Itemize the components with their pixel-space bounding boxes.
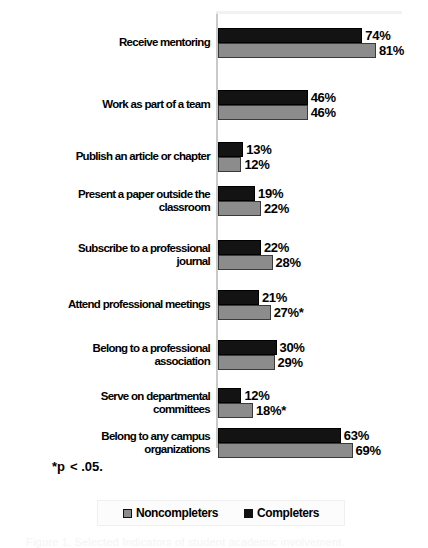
significance-footnote: *p< .05. xyxy=(52,459,103,474)
category-label-line: Attend professional meetings xyxy=(4,298,210,312)
category-label-line: Present a paper outside the xyxy=(4,188,210,202)
category-label: Belong to a professionalassociation xyxy=(4,342,210,369)
bar-noncompleters[interactable] xyxy=(218,157,241,172)
bar-noncompleters[interactable] xyxy=(218,255,273,270)
legend-label-noncompleters: Noncompleters xyxy=(136,506,218,520)
completers-swatch-icon xyxy=(244,509,253,518)
category-label-line: Publish an article or chapter xyxy=(4,150,210,164)
bar-completers[interactable] xyxy=(218,186,255,201)
bar-value-label: 46% xyxy=(308,105,336,120)
bar-value-label: 21% xyxy=(259,290,287,305)
figure-caption-ghost: Figure 1. Selected Indicators of student… xyxy=(26,536,406,548)
bar-pair: 13%12% xyxy=(218,142,271,172)
category-label: Receive mentoring xyxy=(4,36,210,50)
bar-pair: 12%18%* xyxy=(218,388,286,418)
bar-pair: 63%69% xyxy=(218,428,381,458)
bar-pair: 19%22% xyxy=(218,186,289,216)
bar-row-completers: 63% xyxy=(218,428,381,443)
bar-noncompleters[interactable] xyxy=(218,443,353,458)
category-axis-line xyxy=(216,14,218,448)
bar-row-noncompleters: 29% xyxy=(218,355,305,370)
category-label-line: Belong to a professional xyxy=(4,342,210,356)
bar-value-label: 63% xyxy=(341,428,369,443)
category-label-line: Receive mentoring xyxy=(4,36,210,50)
plot-area: Receive mentoring74%81%Work as part of a… xyxy=(0,14,428,448)
bar-value-label: 12% xyxy=(241,157,269,172)
bar-completers[interactable] xyxy=(218,340,277,355)
bar-value-label: 12% xyxy=(241,388,269,403)
category-label: Belong to any campusorganizations xyxy=(4,430,210,457)
bar-row-noncompleters: 69% xyxy=(218,443,381,458)
category-label: Present a paper outside theclassroom xyxy=(4,188,210,215)
bar-value-label: 30% xyxy=(277,340,305,355)
bar-value-label: 29% xyxy=(275,355,303,370)
bar-row-completers: 46% xyxy=(218,90,336,105)
bar-row-noncompleters: 18%* xyxy=(218,403,286,418)
bar-row-completers: 74% xyxy=(218,28,404,43)
legend-item-completers[interactable]: Completers xyxy=(244,506,319,520)
bar-completers[interactable] xyxy=(218,290,259,305)
bar-value-label: 28% xyxy=(273,255,301,270)
category-label-line: association xyxy=(4,355,210,369)
bar-pair: 74%81% xyxy=(218,28,404,58)
bar-completers[interactable] xyxy=(218,142,243,157)
bar-row-completers: 21% xyxy=(218,290,304,305)
bar-row-noncompleters: 28% xyxy=(218,255,301,270)
bar-completers[interactable] xyxy=(218,240,261,255)
category-label: Serve on departmentalcommittees xyxy=(4,390,210,417)
bar-value-label: 18%* xyxy=(253,403,286,418)
bar-noncompleters[interactable] xyxy=(218,105,308,120)
bar-pair: 21%27%* xyxy=(218,290,304,320)
bar-row-completers: 13% xyxy=(218,142,271,157)
bar-noncompleters[interactable] xyxy=(218,305,271,320)
bar-noncompleters[interactable] xyxy=(218,403,253,418)
legend-item-noncompleters[interactable]: Noncompleters xyxy=(123,506,218,520)
bar-completers[interactable] xyxy=(218,388,241,403)
bar-noncompleters[interactable] xyxy=(218,355,275,370)
bar-noncompleters[interactable] xyxy=(218,201,261,216)
bar-completers[interactable] xyxy=(218,428,341,443)
bar-row-noncompleters: 81% xyxy=(218,43,404,58)
category-label: Attend professional meetings xyxy=(4,298,210,312)
category-label-line: organizations xyxy=(4,443,210,457)
bar-pair: 30%29% xyxy=(218,340,305,370)
bar-value-label: 13% xyxy=(243,142,271,157)
bar-row-completers: 22% xyxy=(218,240,301,255)
bar-completers[interactable] xyxy=(218,28,362,43)
category-label: Subscribe to a professionaljournal xyxy=(4,242,210,269)
noncompleters-swatch-icon xyxy=(123,509,132,518)
bar-value-label: 46% xyxy=(308,90,336,105)
category-label-line: committees xyxy=(4,403,210,417)
footnote-comparison: < .05. xyxy=(70,459,103,474)
bar-row-noncompleters: 46% xyxy=(218,105,336,120)
category-label-line: Serve on departmental xyxy=(4,390,210,404)
bar-row-completers: 30% xyxy=(218,340,305,355)
category-label-line: Subscribe to a professional xyxy=(4,242,210,256)
bar-value-label: 69% xyxy=(353,443,381,458)
category-label-line: journal xyxy=(4,255,210,269)
bar-row-noncompleters: 22% xyxy=(218,201,289,216)
bar-value-label: 19% xyxy=(255,186,283,201)
category-label-line: Work as part of a team xyxy=(4,98,210,112)
bar-row-noncompleters: 12% xyxy=(218,157,271,172)
category-label-line: classroom xyxy=(4,201,210,215)
bar-pair: 46%46% xyxy=(218,90,336,120)
category-label: Publish an article or chapter xyxy=(4,150,210,164)
footnote-text: p xyxy=(57,459,65,474)
bar-row-completers: 12% xyxy=(218,388,286,403)
bar-row-completers: 19% xyxy=(218,186,289,201)
bar-value-label: 22% xyxy=(261,240,289,255)
category-label-line: Belong to any campus xyxy=(4,430,210,444)
chart-legend: Noncompleters Completers xyxy=(97,500,345,526)
bar-value-label: 81% xyxy=(376,43,404,58)
bar-value-label: 27%* xyxy=(271,305,304,320)
legend-label-completers: Completers xyxy=(257,506,319,520)
bar-pair: 22%28% xyxy=(218,240,301,270)
bar-value-label: 74% xyxy=(362,28,390,43)
bar-completers[interactable] xyxy=(218,90,308,105)
bar-row-noncompleters: 27%* xyxy=(218,305,304,320)
bar-noncompleters[interactable] xyxy=(218,43,376,58)
bar-value-label: 22% xyxy=(261,201,289,216)
category-label: Work as part of a team xyxy=(4,98,210,112)
